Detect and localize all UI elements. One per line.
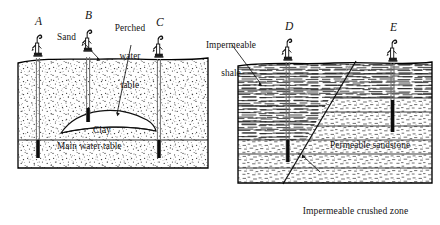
pump-d — [282, 39, 293, 61]
well-label-b: B — [85, 10, 92, 22]
impermeable-shale-line-2: shale — [199, 69, 263, 78]
perched-water-table-line-3: table — [104, 81, 156, 90]
crushed-zone-caption-line-1: Impermeable crushed zone — [278, 205, 433, 217]
well-label-a: A — [35, 16, 42, 28]
clay-label: Clay — [93, 126, 111, 135]
main-water-table-label: Main water table — [57, 142, 122, 151]
perched-water-table-line-2: water — [104, 52, 156, 61]
hydrogeology-figure: A B C Sand Perched water table Clay Main… — [0, 0, 440, 225]
impermeable-shale-label: Impermeable shale — [199, 22, 263, 98]
perched-water-table-line-1: Perched — [104, 24, 156, 33]
well-label-c: C — [156, 17, 164, 29]
pump-a — [32, 35, 43, 57]
well-label-d: D — [285, 21, 293, 33]
pump-b — [82, 30, 93, 52]
perched-water-table-label: Perched water table — [104, 5, 156, 109]
crushed-zone-caption: Impermeable crushed zone prevents flow o… — [278, 182, 433, 225]
permeable-sandstone-label: Permeable sandstone — [330, 141, 410, 150]
pump-e — [387, 40, 398, 62]
well-label-e: E — [390, 22, 397, 34]
sand-label: Sand — [57, 33, 76, 42]
impermeable-shale-line-1: Impermeable — [199, 41, 263, 50]
